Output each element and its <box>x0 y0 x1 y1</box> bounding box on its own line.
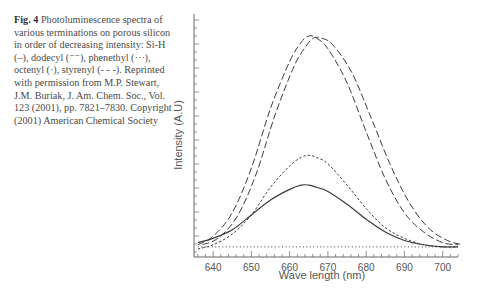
x-axis-title: Wave length (nm) <box>279 269 365 281</box>
x-tick-label: 640 <box>205 262 222 273</box>
x-tick-label: 690 <box>396 262 413 273</box>
series-phenethyl-line <box>198 155 458 249</box>
spectra-chart: 640650660670680690700 Wave length (nm) I… <box>0 0 479 297</box>
y-axis-title: Intensity (A.U) <box>172 100 184 170</box>
y-axis-ticks <box>194 20 199 252</box>
series-dodecyl-line <box>202 37 462 245</box>
spectra-curves <box>198 36 463 249</box>
series-si-h-line <box>198 36 458 245</box>
series-octenyl-line <box>198 185 458 247</box>
x-tick-label: 650 <box>243 262 260 273</box>
x-tick-label: 700 <box>434 262 451 273</box>
x-axis-ticks <box>198 251 458 257</box>
